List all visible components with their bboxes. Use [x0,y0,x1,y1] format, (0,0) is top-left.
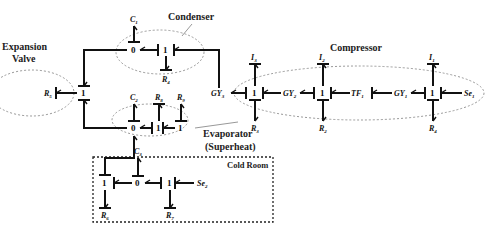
element-tf1: TF1 [351,89,364,99]
element-gy1: GY1 [394,89,407,99]
element-r6: R6 [100,211,109,221]
condenser-zero-junction: 0 [131,45,136,55]
element-se1: Se1 [464,89,475,99]
element-r7: R7 [165,211,174,221]
element-se2: Se2 [197,179,208,189]
condenser-region [116,30,204,74]
element-c2: C2 [130,93,138,103]
element-c1: C1 [130,15,138,25]
bond-graph-diagram: Condenser Expansion Valve Compressor Eva… [0,0,498,230]
compressor-label: Compressor [330,42,383,53]
evaporator-label-line1: Evaporator [203,128,253,139]
element-r9: R9 [176,93,185,103]
evaporator-zero-junction: 0 [131,123,136,133]
expansion-valve-label-line1: Expansion [2,41,47,52]
evaporator-superheat-one-junction: 1 [178,123,183,133]
element-i2: I2 [318,53,325,63]
expansion-one-junction: 1 [81,88,86,98]
element-gy3: GY3 [211,89,225,99]
element-r2: R2 [318,124,327,134]
compressor-one-junction-b: 1 [320,88,325,98]
compressor-one-junction-a: 1 [252,88,257,98]
evaporator-one-junction: 1 [156,123,161,133]
element-r8: R8 [154,93,163,103]
cold-room-label: Cold Room [227,160,268,170]
evaporator-label-line2: (Superheat) [205,141,256,153]
condenser-pointer [182,24,192,36]
compressor-one-junction-c: 1 [430,88,435,98]
condenser-one-junction: 1 [163,45,168,55]
element-gy2: GY2 [283,89,297,99]
element-r5: R5 [43,89,52,99]
element-r4-condenser: R4 [161,75,170,85]
element-c3: C3 [134,147,142,157]
coldroom-zero-junction: 0 [135,178,140,188]
element-i3: I3 [250,53,257,63]
expansion-valve-label-line2: Valve [12,53,36,64]
coldroom-one-junction-right: 1 [167,178,172,188]
coldroom-one-junction-left: 1 [102,178,107,188]
element-i1: I1 [428,53,435,63]
element-r3: R3 [250,124,259,134]
element-r-compressor: R4 [428,124,437,134]
condenser-label: Condenser [168,11,215,22]
